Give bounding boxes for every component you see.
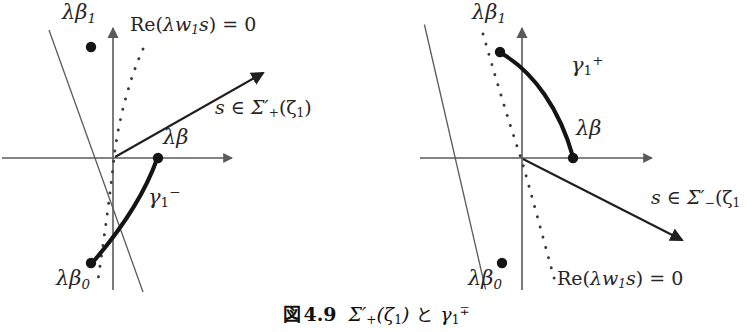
right-lambda-beta-1-label: λβ1 <box>472 2 506 25</box>
right-lambda-beta-1-point <box>495 47 505 57</box>
right-sector-boundary-line <box>424 24 485 289</box>
figure-caption: 図4.9Σ′+(ζ1)とγ1∓ <box>0 300 753 327</box>
right-gamma-plus-curve <box>501 53 573 157</box>
right-re-condition-label: Re(λw1s) = 0 <box>557 269 683 291</box>
left-gamma-minus-label: γ1− <box>148 186 180 210</box>
right-panel-graphics <box>420 24 682 290</box>
caption-sigma: Σ′+(ζ1) <box>348 303 409 325</box>
left-panel-graphics <box>2 28 263 292</box>
left-sector-label: s ∈ Σ′+(ζ1) <box>215 98 312 120</box>
figure-container: λβ1 λβ0 λβ Re(λw1s) = 0 s ∈ Σ′+(ζ1) γ1− … <box>0 0 753 332</box>
left-lambda-beta-label: λβ <box>163 127 188 148</box>
caption-fig-word: 図 <box>283 304 301 325</box>
left-lambda-beta-point <box>153 153 163 163</box>
right-gamma-plus-label: γ1+ <box>571 54 603 78</box>
left-lambda-beta-0-label: λβ0 <box>56 268 90 291</box>
right-lambda-beta-0-point <box>497 258 507 268</box>
left-sector-boundary-line <box>49 30 143 292</box>
left-lambda-beta-1-label: λβ1 <box>62 2 96 25</box>
caption-gamma: γ1∓ <box>440 303 469 325</box>
right-sector-label: s ∈ Σ′−(ζ1 <box>651 188 740 210</box>
left-re-condition-label: Re(λw1s) = 0 <box>130 15 256 37</box>
caption-conjunction: と <box>416 305 433 325</box>
left-lambda-beta-1-point <box>86 42 96 52</box>
caption-number: 4.9 <box>303 303 336 325</box>
right-lambda-beta-0-label: λβ0 <box>468 268 502 291</box>
right-lambda-beta-point <box>568 153 578 163</box>
left-lambda-beta-0-point <box>86 258 96 268</box>
right-dotted-re-zero-curve <box>483 34 556 285</box>
right-lambda-beta-label: λβ <box>576 118 601 139</box>
